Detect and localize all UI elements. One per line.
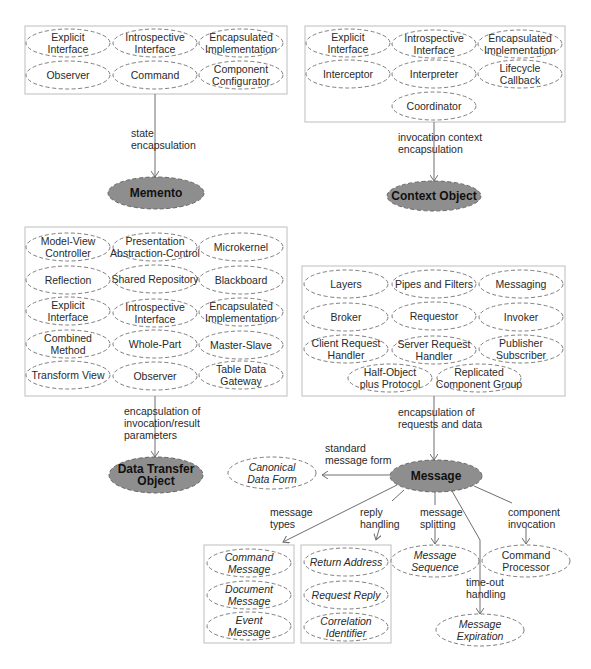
pattern-node-invoker[interactable]: Invoker — [479, 303, 563, 331]
pattern-node-explicit-interface[interactable]: ExplicitInterface — [306, 29, 390, 57]
node-label-line: Introspective — [125, 301, 185, 313]
pattern-node-explicit-interface[interactable]: ExplicitInterface — [26, 29, 110, 57]
node-label-line: Interpreter — [410, 68, 459, 80]
node-label-line: Interface — [328, 43, 369, 55]
pattern-node-encapsulated-implementation[interactable]: EncapsulatedImplementation — [478, 30, 562, 58]
edge-label-line: standard — [325, 442, 366, 454]
pattern-node-combined-method[interactable]: CombinedMethod — [26, 330, 110, 358]
edge-label-line: encapsulation — [131, 139, 196, 151]
pattern-node-pipes-and-filters[interactable]: Pipes and Filters — [392, 270, 476, 298]
node-label-line: Encapsulated — [209, 300, 273, 312]
pattern-node-interceptor[interactable]: Interceptor — [306, 60, 390, 88]
node-label-line: Controller — [45, 247, 91, 259]
node-label-line: Command — [502, 549, 551, 561]
pattern-node-reflection[interactable]: Reflection — [26, 266, 110, 294]
edge-encapsulation-of-requests-and-data: encapsulation ofrequests and data — [398, 396, 482, 460]
pattern-node-coordinator[interactable]: Coordinator — [392, 92, 476, 120]
pattern-node-master-slave[interactable]: Master-Slave — [199, 331, 283, 359]
pattern-node-lifecycle-callback[interactable]: LifecycleCallback — [478, 60, 562, 88]
node-label-line: Interface — [48, 43, 89, 55]
pattern-node-document-message[interactable]: DocumentMessage — [207, 581, 291, 609]
node-label-line: Method — [50, 344, 85, 356]
pattern-node-encapsulated-implementation[interactable]: EncapsulatedImplementation — [199, 298, 283, 326]
edge-label-line: message form — [325, 454, 392, 466]
node-label-line: Message — [228, 595, 271, 607]
pattern-node-explicit-interface[interactable]: ExplicitInterface — [26, 297, 110, 325]
node-label-line: Layers — [330, 278, 362, 290]
pattern-node-server-request-handler[interactable]: Server RequestHandler — [392, 336, 476, 364]
pattern-node-observer[interactable]: Observer — [113, 362, 197, 390]
pattern-node-context-object[interactable]: Context Object — [387, 181, 481, 211]
edge-state-encapsulation: stateencapsulation — [131, 94, 196, 177]
pattern-node-canonical-data-form[interactable]: CanonicalData Form — [228, 457, 316, 489]
pattern-node-whole-part[interactable]: Whole-Part — [113, 330, 197, 358]
edge-label-line: invocation — [508, 518, 555, 530]
pattern-node-transform-view[interactable]: Transform View — [26, 361, 110, 389]
node-label-line: Introspective — [404, 32, 464, 44]
node-label-line: Blackboard — [215, 274, 268, 286]
pattern-node-command[interactable]: Command — [113, 61, 197, 89]
pattern-node-command-message[interactable]: CommandMessage — [207, 549, 291, 577]
pattern-node-encapsulated-implementation[interactable]: EncapsulatedImplementation — [199, 29, 283, 57]
pattern-node-client-request-handler[interactable]: Client RequestHandler — [304, 335, 388, 363]
edge-line — [474, 486, 512, 503]
edge-label-line: requests and data — [398, 418, 482, 430]
edge-label-line: handling — [466, 588, 506, 600]
node-label-line: Interceptor — [323, 68, 374, 80]
edge-line — [392, 490, 404, 501]
node-label-line: Implementation — [205, 43, 277, 55]
pattern-node-publisher-subscriber[interactable]: PublisherSubscriber — [479, 335, 563, 363]
node-label-line: Message — [414, 549, 457, 561]
pattern-node-model-view-controller[interactable]: Model-ViewController — [26, 233, 110, 261]
pattern-node-microkernel[interactable]: Microkernel — [199, 233, 283, 261]
node-label-line: Data Form — [247, 473, 297, 485]
edge-label-line: component — [508, 506, 560, 518]
pattern-node-broker[interactable]: Broker — [304, 303, 388, 331]
pattern-node-introspective-interface[interactable]: IntrospectiveInterface — [113, 299, 197, 327]
node-label-line: Interface — [135, 43, 176, 55]
pattern-node-data-transfer-object[interactable]: Data TransferObject — [109, 457, 203, 493]
edge-label-line: encapsulation — [398, 143, 463, 155]
pattern-node-message[interactable]: Message — [390, 460, 482, 492]
pattern-node-table-data-gateway[interactable]: Table DataGateway — [199, 361, 283, 389]
node-label-line: Command — [225, 551, 275, 563]
pattern-node-layers[interactable]: Layers — [304, 270, 388, 298]
node-label-line: Callback — [500, 74, 541, 86]
edge-label-line: state — [131, 127, 154, 139]
node-label-line: Introspective — [125, 31, 185, 43]
node-label-line: Message — [459, 618, 502, 630]
pattern-node-observer[interactable]: Observer — [26, 61, 110, 89]
pattern-node-correlation-identifier[interactable]: CorrelationIdentifier — [304, 613, 388, 641]
node-label-line: Explicit — [51, 299, 84, 311]
pattern-node-component-configurator[interactable]: ComponentConfigurator — [199, 61, 283, 89]
pattern-node-introspective-interface[interactable]: IntrospectiveInterface — [113, 29, 197, 57]
pattern-node-messaging[interactable]: Messaging — [479, 270, 563, 298]
pattern-node-message-expiration[interactable]: MessageExpiration — [436, 614, 524, 646]
pattern-node-return-address[interactable]: Return Address — [304, 548, 388, 576]
pattern-node-request-reply[interactable]: Request Reply — [304, 581, 388, 609]
edge-label-line: reply — [360, 506, 384, 518]
pattern-node-blackboard[interactable]: Blackboard — [199, 266, 283, 294]
context-object-group: ExplicitInterfaceIntrospectiveInterfaceE… — [305, 26, 565, 122]
node-label-line: Replicated — [454, 366, 504, 378]
pattern-node-requestor[interactable]: Requestor — [392, 302, 476, 330]
pattern-node-interpreter[interactable]: Interpreter — [392, 60, 476, 88]
pattern-node-event-message[interactable]: EventMessage — [207, 612, 291, 640]
pattern-node-half-object-plus-protocol[interactable]: Half-Objectplus Protocol — [348, 364, 432, 392]
node-label-line: Sequence — [411, 561, 458, 573]
edge-component-invocation: componentinvocation — [474, 486, 560, 530]
node-label-line: Coordinator — [407, 100, 462, 112]
pattern-node-message-sequence[interactable]: MessageSequence — [391, 545, 479, 577]
message-types-group: CommandMessageDocumentMessageEventMessag… — [204, 545, 294, 643]
pattern-groups: ExplicitInterfaceIntrospectiveInterfaceE… — [25, 26, 565, 643]
pattern-node-memento[interactable]: Memento — [108, 177, 204, 209]
node-label-line: Event — [236, 614, 264, 626]
node-label-line: Pipes and Filters — [395, 278, 473, 290]
node-label-line: Implementation — [205, 312, 277, 324]
node-label-line: Lifecycle — [500, 62, 541, 74]
pattern-node-command-processor[interactable]: CommandProcessor — [482, 545, 570, 577]
edge-label-line: invocation/result — [124, 417, 200, 429]
node-label-line: Document — [225, 583, 274, 595]
pattern-node-introspective-interface[interactable]: IntrospectiveInterface — [392, 30, 476, 58]
node-label-line: Whole-Part — [129, 338, 182, 350]
